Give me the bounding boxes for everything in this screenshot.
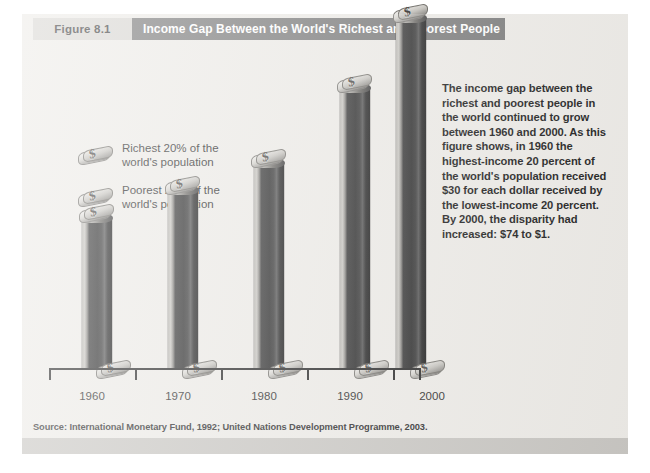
bar-1980: $ $ [254, 163, 284, 368]
bar-1960: $ $ [82, 218, 112, 368]
bar-1990: $ $ [340, 88, 370, 368]
x-axis-tick [135, 370, 137, 380]
legend-item-richest: $ Richest 20% of the world's population [78, 143, 258, 179]
x-axis-tick [393, 370, 395, 380]
figure-card: Figure 8.1 Income Gap Between the World'… [22, 14, 628, 454]
figure-note: The income gap between the richest and p… [442, 81, 614, 242]
money-roll-icon: $ [393, 5, 427, 22]
x-axis-tick [307, 370, 309, 380]
x-axis-tick [419, 370, 421, 380]
x-axis-label-1970: 1970 [143, 390, 213, 402]
x-axis-tick [221, 370, 223, 380]
money-roll-icon: $ [337, 75, 371, 92]
figure-footer-bar [22, 438, 628, 454]
figure-title: Income Gap Between the World's Richest a… [132, 18, 505, 40]
money-roll-icon: $ [165, 177, 199, 194]
bar-2000: $ $ [396, 18, 426, 368]
x-axis-label-1960: 1960 [57, 390, 127, 402]
legend-item-label: Richest 20% of the world's population [122, 141, 252, 169]
money-roll-icon: $ [251, 150, 285, 167]
money-roll-icon: $ [78, 147, 112, 164]
x-axis-label-1990: 1990 [315, 390, 385, 402]
figure-source: Source: International Monetary Fund, 199… [33, 422, 613, 432]
chart-plot-area: $ Richest 20% of the world's population … [22, 43, 628, 418]
figure-page: Figure 8.1 Income Gap Between the World'… [0, 0, 650, 473]
x-axis-tick [49, 370, 51, 380]
figure-number-tag: Figure 8.1 [33, 18, 132, 40]
bar-1970: $ $ [168, 190, 198, 368]
x-axis-line [49, 368, 421, 370]
figure-header: Figure 8.1 Income Gap Between the World'… [22, 14, 628, 43]
money-roll-icon: $ [79, 205, 113, 222]
x-axis-label-2000: 2000 [397, 390, 467, 402]
x-axis-label-1980: 1980 [229, 390, 299, 402]
